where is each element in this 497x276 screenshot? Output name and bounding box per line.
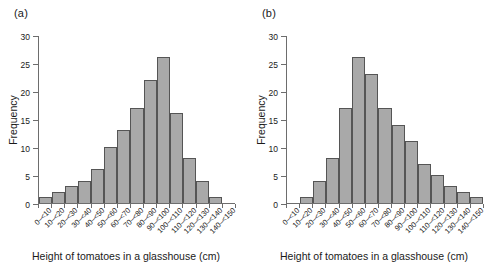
bar-cell <box>196 36 209 203</box>
histogram-bar[interactable] <box>170 113 183 203</box>
bar-series-b <box>287 36 483 203</box>
histogram-bar[interactable] <box>405 141 418 203</box>
bar-cell <box>287 36 300 203</box>
bar-cell <box>470 36 483 203</box>
histogram-bar[interactable] <box>457 192 470 203</box>
histogram-bar[interactable] <box>52 192 65 203</box>
bar-cell <box>326 36 339 203</box>
y-axis-title-a: Frequency <box>6 36 20 204</box>
histogram-bar[interactable] <box>365 74 378 203</box>
bar-cell <box>170 36 183 203</box>
plot-area-b: 051015202530 <box>286 36 483 204</box>
histogram-bar[interactable] <box>444 186 457 203</box>
y-tick-label: 25 <box>21 60 30 70</box>
histogram-bar[interactable] <box>130 108 143 203</box>
histogram-bar[interactable] <box>196 181 209 203</box>
y-tick-mark <box>281 36 286 37</box>
y-tick-label: 10 <box>21 144 30 154</box>
y-tick-label: 30 <box>269 32 278 42</box>
y-tick-mark <box>33 64 38 65</box>
bar-cell <box>405 36 418 203</box>
y-tick-mark <box>33 148 38 149</box>
bar-cell <box>157 36 170 203</box>
bar-cell <box>117 36 130 203</box>
bar-cell <box>444 36 457 203</box>
y-tick-mark <box>33 120 38 121</box>
x-axis-line-a <box>38 203 235 204</box>
y-tick-label: 10 <box>269 144 278 154</box>
histogram-bar[interactable] <box>144 80 157 203</box>
bar-cell <box>431 36 444 203</box>
bar-cell <box>104 36 117 203</box>
bar-cell <box>339 36 352 203</box>
bar-cell <box>352 36 365 203</box>
y-tick-label: 0 <box>273 200 278 210</box>
x-tick-labels-a: 0–<1010–<2020–<3030–<4040–<5050–<6060–<7… <box>39 206 236 250</box>
y-tick-label: 0 <box>25 200 30 210</box>
bar-cell <box>313 36 326 203</box>
bar-cell <box>392 36 405 203</box>
bar-cell <box>78 36 91 203</box>
histogram-bar[interactable] <box>91 169 104 203</box>
histogram-figure: (a) Frequency 051015202530 0–<1010–<2020… <box>0 0 497 276</box>
x-axis-line-b <box>286 203 483 204</box>
y-tick-label: 5 <box>273 172 278 182</box>
bar-cell <box>144 36 157 203</box>
panel-label-a: (a) <box>14 7 28 19</box>
histogram-bar[interactable] <box>392 125 405 203</box>
y-tick-mark <box>281 176 286 177</box>
panel-a: (a) Frequency 051015202530 0–<1010–<2020… <box>0 0 248 276</box>
bar-series-a <box>39 36 235 203</box>
bar-cell <box>378 36 391 203</box>
histogram-bar[interactable] <box>39 197 52 203</box>
y-axis-title-b: Frequency <box>254 36 268 204</box>
bar-cell <box>457 36 470 203</box>
histogram-bar[interactable] <box>313 181 326 203</box>
bar-cell <box>52 36 65 203</box>
bar-cell <box>418 36 431 203</box>
y-tick-label: 20 <box>21 88 30 98</box>
histogram-bar[interactable] <box>418 164 431 203</box>
histogram-bar[interactable] <box>326 158 339 203</box>
x-axis-title-a: Height of tomatoes in a glasshouse (cm) <box>10 250 242 262</box>
y-tick-mark <box>281 120 286 121</box>
bar-cell <box>365 36 378 203</box>
y-tick-mark <box>281 148 286 149</box>
y-axis-title-text-b: Frequency <box>255 95 267 145</box>
y-tick-mark <box>281 92 286 93</box>
histogram-bar[interactable] <box>78 181 91 203</box>
panel-b: (b) Frequency 051015202530 0–<1010–<2020… <box>248 0 496 276</box>
y-tick-mark <box>33 176 38 177</box>
y-tick-mark <box>33 92 38 93</box>
y-tick-label: 30 <box>21 32 30 42</box>
histogram-bar[interactable] <box>157 57 170 203</box>
histogram-bar[interactable] <box>300 197 313 203</box>
bar-cell <box>39 36 52 203</box>
histogram-bar[interactable] <box>470 197 483 203</box>
histogram-bar[interactable] <box>209 197 222 203</box>
bar-cell <box>65 36 78 203</box>
y-tick-label: 5 <box>25 172 30 182</box>
histogram-bar[interactable] <box>339 108 352 203</box>
y-tick-label: 15 <box>21 116 30 126</box>
histogram-bar[interactable] <box>352 57 365 203</box>
bar-cell <box>183 36 196 203</box>
y-tick-label: 25 <box>269 60 278 70</box>
x-axis-title-b: Height of tomatoes in a glasshouse (cm) <box>258 250 490 262</box>
panel-label-b: (b) <box>262 7 276 19</box>
histogram-bar[interactable] <box>431 175 444 203</box>
histogram-bar[interactable] <box>104 147 117 203</box>
histogram-bar[interactable] <box>378 108 391 203</box>
bar-cell <box>222 36 235 203</box>
y-tick-mark <box>33 36 38 37</box>
histogram-bar[interactable] <box>117 130 130 203</box>
y-tick-label: 15 <box>269 116 278 126</box>
y-tick-label: 20 <box>269 88 278 98</box>
y-tick-mark <box>281 64 286 65</box>
bar-cell <box>130 36 143 203</box>
histogram-bar[interactable] <box>65 186 78 203</box>
bar-cell <box>209 36 222 203</box>
x-tick-labels-b: 0–<1010–<2020–<3030–<4040–<5050–<6060–<7… <box>287 206 484 250</box>
histogram-bar[interactable] <box>183 158 196 203</box>
plot-area-a: 051015202530 <box>38 36 235 204</box>
